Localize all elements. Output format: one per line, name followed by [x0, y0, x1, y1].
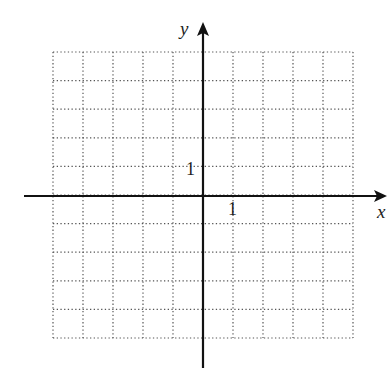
coordinate-plane: x y 1 1 [0, 0, 392, 386]
x-tick-label-1: 1 [228, 199, 237, 219]
x-axis-label: x [376, 201, 386, 222]
y-tick-label-1: 1 [186, 159, 195, 179]
y-axis-label: y [178, 18, 189, 39]
